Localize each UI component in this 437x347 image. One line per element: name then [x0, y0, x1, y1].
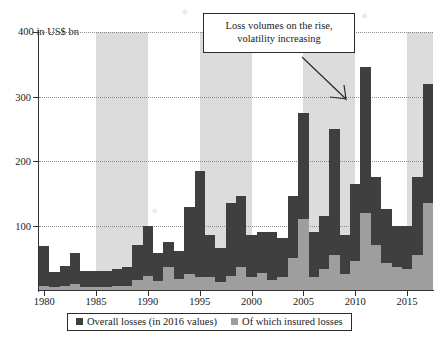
legend-label-insured: Of which insured losses: [242, 316, 343, 327]
bar-segment-insured: [184, 274, 194, 290]
bar-1980: [39, 32, 49, 290]
bar-2017: [423, 32, 433, 290]
bar-2013: [381, 32, 391, 290]
legend-item-insured: Of which insured losses: [231, 316, 343, 327]
bar-segment-insured: [257, 273, 267, 290]
bar-2001: [257, 32, 267, 290]
bar-1987: [112, 32, 122, 290]
bar-1985: [91, 32, 101, 290]
bar-1999: [236, 32, 246, 290]
bar-1996: [205, 32, 215, 290]
bar-segment-insured: [163, 267, 173, 290]
bar-segment-insured: [309, 277, 319, 290]
bar-1992: [163, 32, 173, 290]
scan-speckle: ✦: [360, 10, 369, 23]
bar-segment-insured: [423, 203, 433, 290]
bar-1995: [195, 32, 205, 290]
bar-2000: [246, 32, 256, 290]
plot-area: [39, 32, 433, 290]
bar-segment-insured: [350, 261, 360, 290]
bar-segment-insured: [132, 280, 142, 290]
bar-2003: [277, 32, 287, 290]
bar-segment-overall: [195, 171, 205, 290]
x-tick-label: 2010: [345, 296, 366, 307]
bar-segment-insured: [329, 255, 339, 290]
x-axis-line: [38, 290, 434, 291]
x-tick-label: 2015: [397, 296, 418, 307]
bar-2016: [412, 32, 422, 290]
x-tick-label: 1995: [189, 296, 210, 307]
bar-segment-insured: [319, 269, 329, 290]
bar-segment-insured: [205, 277, 215, 290]
bar-1991: [153, 32, 163, 290]
bar-2012: [371, 32, 381, 290]
bar-2011: [360, 32, 370, 290]
bar-1983: [70, 32, 80, 290]
y-tick: [33, 226, 39, 227]
callout-line-1: Loss volumes on the rise,: [211, 19, 347, 32]
bar-segment-insured: [381, 263, 391, 290]
bar-segment-insured: [215, 282, 225, 290]
bar-segment-insured: [288, 258, 298, 290]
callout-pointer-icon: [300, 55, 360, 107]
bar-segment-insured: [392, 267, 402, 290]
y-tick: [33, 161, 39, 162]
bar-segment-insured: [340, 274, 350, 290]
x-tick-label: 2000: [241, 296, 262, 307]
y-tick: [33, 97, 39, 98]
bar-segment-insured: [360, 213, 370, 290]
bar-1989: [132, 32, 142, 290]
bar-segment-insured: [412, 255, 422, 290]
bar-segment-insured: [371, 245, 381, 290]
annotation-callout: Loss volumes on the rise, volatility inc…: [203, 13, 355, 53]
bar-2004: [288, 32, 298, 290]
bar-segment-insured: [153, 281, 163, 290]
legend-label-overall: Overall losses (in 2016 values): [87, 316, 217, 327]
callout-line-2: volatility increasing: [211, 32, 347, 45]
bar-segment-insured: [246, 277, 256, 290]
bar-1981: [49, 32, 59, 290]
bar-segment-insured: [298, 219, 308, 290]
bar-segment-insured: [226, 276, 236, 290]
bar-1984: [80, 32, 90, 290]
y-tick-label: 100: [15, 220, 31, 231]
bar-segment-insured: [236, 267, 246, 290]
x-tick-label: 1985: [86, 296, 107, 307]
legend-swatch-insured-icon: [231, 318, 238, 325]
bar-1998: [226, 32, 236, 290]
legend-swatch-overall-icon: [76, 318, 83, 325]
y-tick: [33, 32, 39, 33]
x-tick-label: 1980: [34, 296, 55, 307]
y-tick-label: 300: [15, 91, 31, 102]
chart-container: 400 in US$ bn 100200300 1980198519901995…: [0, 0, 437, 347]
bar-segment-insured: [143, 276, 153, 290]
bar-segment-insured: [195, 277, 205, 290]
bar-2015: [402, 32, 412, 290]
x-tick-label: 1990: [137, 296, 158, 307]
scan-speckle: ✦: [150, 205, 159, 218]
scan-speckle: ✦: [180, 6, 189, 19]
chart-legend: Overall losses (in 2016 values) Of which…: [67, 313, 352, 331]
bar-2002: [267, 32, 277, 290]
bar-1988: [122, 32, 132, 290]
y-tick-label: 200: [15, 156, 31, 167]
bar-2014: [392, 32, 402, 290]
bar-segment-insured: [174, 279, 184, 290]
bar-1986: [101, 32, 111, 290]
bar-1982: [60, 32, 70, 290]
bar-segment-insured: [267, 280, 277, 290]
legend-item-overall: Overall losses (in 2016 values): [76, 316, 217, 327]
bar-segment-overall: [39, 246, 49, 290]
x-tick-label: 2005: [293, 296, 314, 307]
bar-1990: [143, 32, 153, 290]
bar-1994: [184, 32, 194, 290]
bar-segment-insured: [402, 269, 412, 290]
bar-1997: [215, 32, 225, 290]
bar-1993: [174, 32, 184, 290]
bar-segment-insured: [277, 277, 287, 290]
